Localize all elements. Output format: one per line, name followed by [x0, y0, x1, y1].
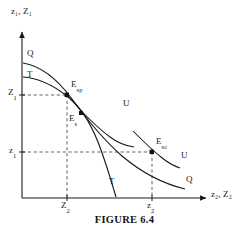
figure-container: z₁, Z₁ z₂, Z₂ Z1 z1 Z2 z2 Q Q T T U U Es…: [0, 0, 249, 235]
x-tick-label-Z2-text: Z: [61, 200, 67, 210]
y-tick-label-Z1-sub: 1: [14, 94, 17, 101]
y-axis-label: z₁, Z₁: [11, 7, 32, 16]
axes-group: [22, 32, 206, 198]
tick-marks-group: [19, 95, 152, 201]
x-tick-label-z2: z2: [147, 201, 154, 210]
curve-label-U-lower-text: U: [181, 150, 188, 160]
figure-6-4-diagram: [0, 0, 249, 235]
point-label-Esp-sub: sp: [77, 86, 83, 93]
x-axis-label-text: z₂, Z₂: [211, 189, 232, 199]
curve-label-T-start: T: [27, 70, 33, 79]
curve-label-Q-end: Q: [186, 175, 193, 184]
x-tick-label-z2-sub: 2: [151, 207, 154, 214]
curve-label-U-upper: U: [123, 99, 130, 108]
x-tick-label-Z2-sub: 2: [67, 207, 70, 214]
curve-label-T-end-text: T: [109, 176, 115, 186]
y-tick-label-Z1-text: Z: [8, 87, 14, 97]
point-marker-Esc: [150, 150, 154, 154]
point-label-Esc-text: E: [156, 136, 162, 146]
curve-label-Q-start-text: Q: [27, 48, 34, 58]
curve-label-U-lower: U: [181, 151, 188, 160]
curve-label-Q-start: Q: [27, 49, 34, 58]
point-label-Esp-text: E: [71, 79, 77, 89]
point-label-Esc-sub: sc: [162, 143, 168, 150]
x-axis-label: z₂, Z₂: [211, 190, 232, 199]
x-tick-label-Z2: Z2: [61, 201, 70, 210]
point-marker-Esp: [65, 93, 69, 97]
y-axis-label-text: z₁, Z₁: [11, 6, 32, 16]
y-tick-label-Z1: Z1: [8, 88, 17, 97]
point-label-Esp: Esp: [71, 80, 83, 89]
point-label-Es: Es: [69, 114, 77, 123]
point-label-Es-sub: s: [75, 120, 78, 127]
curve-label-T-start-text: T: [27, 69, 33, 79]
equilibrium-points-group: [65, 93, 154, 154]
guide-lines-group: [22, 95, 152, 197]
figure-caption: FIGURE 6.4: [0, 214, 249, 225]
curve-label-U-upper-text: U: [123, 98, 130, 108]
curve-label-T-end: T: [109, 177, 115, 186]
y-tick-label-z1-sub: 1: [13, 152, 16, 159]
point-marker-Es: [79, 111, 83, 115]
point-label-Es-text: E: [69, 113, 75, 123]
curve-label-Q-end-text: Q: [186, 174, 193, 184]
y-tick-label-z1: z1: [9, 146, 16, 155]
point-label-Esc: Esc: [156, 137, 167, 146]
curve-Q: [23, 63, 185, 189]
